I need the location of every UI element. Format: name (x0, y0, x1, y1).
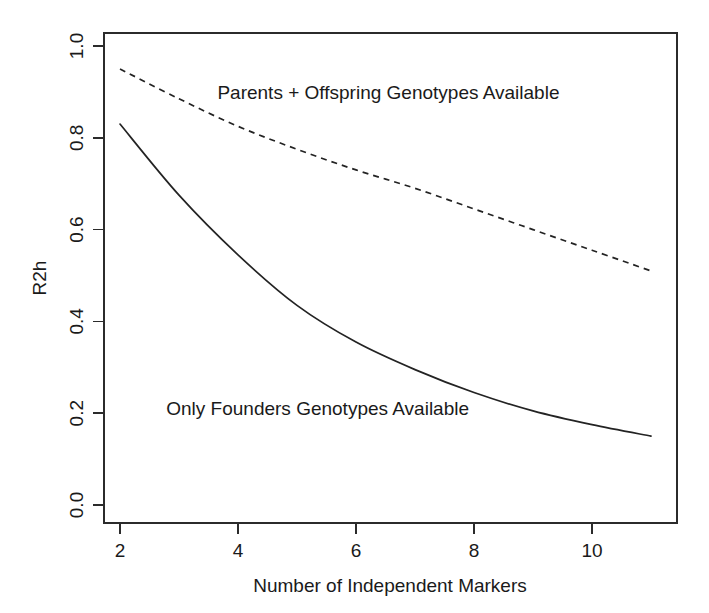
y-tick-label: 0.4 (66, 308, 87, 335)
y-axis-ticks (93, 46, 104, 505)
plot-frame-box (104, 33, 677, 523)
series-line-only-founders (120, 124, 651, 436)
x-axis-title: Number of Independent Markers (253, 575, 527, 596)
x-tick-label: 4 (233, 540, 244, 561)
y-axis-title: R2h (29, 261, 50, 296)
x-tick-label: 10 (581, 540, 602, 561)
figure-root: 0.00.20.40.60.81.0 246810 Parents + Offs… (0, 0, 709, 613)
x-axis-tick-labels: 246810 (115, 540, 603, 561)
data-series-group (120, 69, 651, 436)
x-axis-ticks (120, 523, 592, 534)
annotation-only-founders: Only Founders Genotypes Available (166, 398, 469, 419)
x-tick-label: 8 (469, 540, 480, 561)
annotation-parents-offspring: Parents + Offspring Genotypes Available (217, 82, 559, 103)
y-tick-label: 0.0 (66, 492, 87, 518)
line-chart: 0.00.20.40.60.81.0 246810 Parents + Offs… (0, 0, 709, 613)
plot-frame (104, 33, 677, 523)
y-tick-label: 1.0 (66, 33, 87, 59)
x-tick-label: 6 (351, 540, 362, 561)
y-tick-label: 0.6 (66, 216, 87, 242)
y-tick-label: 0.8 (66, 125, 87, 151)
y-tick-label: 0.2 (66, 400, 87, 426)
y-axis-tick-labels: 0.00.20.40.60.81.0 (66, 33, 87, 518)
x-tick-label: 2 (115, 540, 126, 561)
